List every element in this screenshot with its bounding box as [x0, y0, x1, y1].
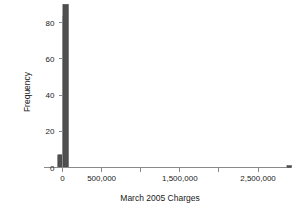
- histogram-bar: [58, 155, 63, 168]
- y-axis-title: Frequency: [22, 71, 32, 112]
- histogram-bar: [287, 166, 292, 168]
- y-axis-ticks: 020406080: [46, 19, 63, 173]
- histogram-bar: [63, 4, 68, 167]
- chart-canvas: 020406080 0500,0001,500,0002,500,000 Mar…: [0, 0, 296, 215]
- x-axis-ticks: 0500,0001,500,0002,500,000: [60, 168, 296, 183]
- bars-group: [58, 4, 292, 167]
- x-axis-tick-label: 0: [60, 174, 65, 183]
- x-axis-title: March 2005 Charges: [120, 193, 199, 203]
- y-axis-tick-label: 40: [46, 91, 55, 100]
- y-axis-tick-label: 60: [46, 55, 55, 64]
- x-axis-tick-label: 2,500,000: [240, 174, 276, 183]
- y-axis-tick-label: 0: [50, 164, 55, 173]
- x-axis-tick-label: 1,500,000: [162, 174, 198, 183]
- histogram-chart: 020406080 0500,0001,500,0002,500,000 Mar…: [0, 0, 296, 215]
- y-axis-tick-label: 80: [46, 19, 55, 28]
- y-axis-tick-label: 20: [46, 127, 55, 136]
- x-axis-tick-label: 500,000: [87, 174, 116, 183]
